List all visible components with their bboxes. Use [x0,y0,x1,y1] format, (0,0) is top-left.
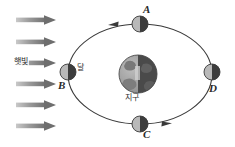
label-position-d: D [209,83,217,94]
moon-position-b [60,64,76,80]
orbit-direction-arrow-bottom [161,122,172,127]
label-position-c: C [143,129,150,140]
figure-canvas: A B C D 달 지구 햇빛 [0,0,235,147]
label-earth: 지구 [125,94,139,102]
label-sunlight: 햇빛 [13,58,29,66]
moon-orbit-diagram [0,0,235,147]
sunlight-ray-6 [16,121,56,131]
sunlight-ray-5 [16,100,56,110]
sunlight-rays-group [16,15,56,131]
moon-position-d [204,64,220,80]
sunlight-ray-2 [16,37,56,47]
orbit-direction-arrow-top [108,22,119,27]
label-position-a: A [143,4,150,15]
moon-position-a [132,16,148,32]
sunlight-ray-4 [16,79,56,89]
label-position-b: B [58,80,65,91]
label-moon: 달 [77,64,84,72]
sunlight-ray-1 [16,15,56,25]
earth-body [119,55,157,93]
